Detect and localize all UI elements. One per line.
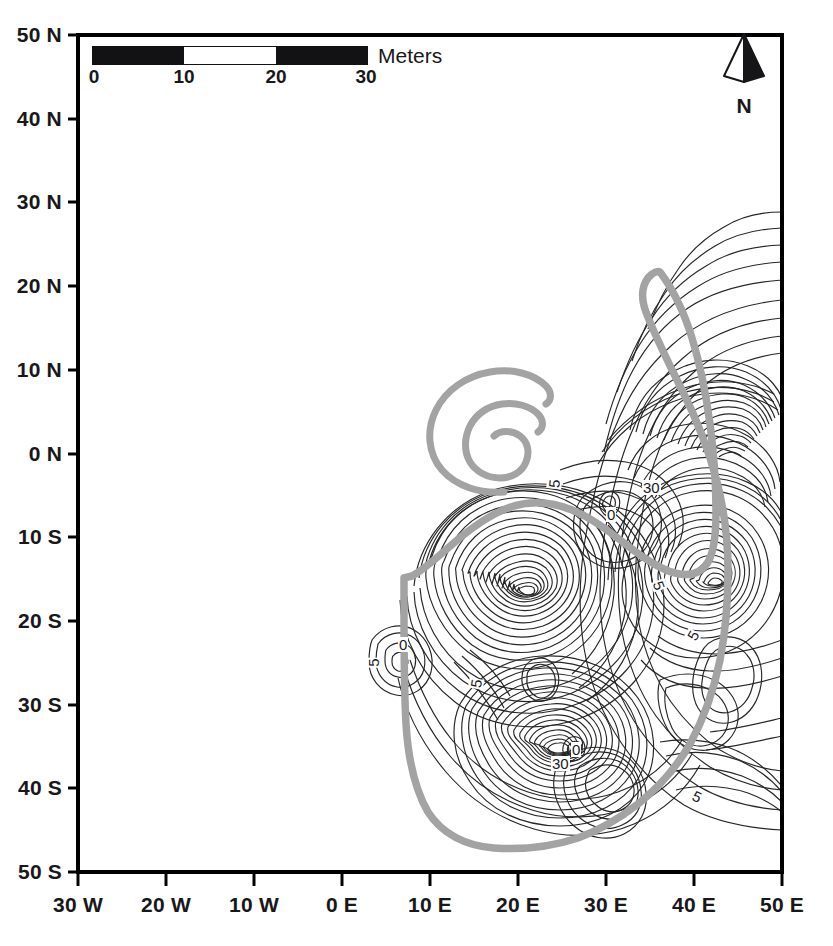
contour-label: 30: [642, 480, 661, 495]
x-axis-tick-label: 50 E: [760, 893, 804, 917]
contour-label: 0: [606, 507, 616, 522]
y-axis-tick-label: 10 S: [0, 525, 62, 549]
scale-bar-segment: [184, 47, 275, 64]
y-axis-tick-label: 40 S: [0, 776, 62, 800]
contour-label: 0: [398, 637, 408, 652]
contour-label: 0: [571, 742, 581, 757]
y-axis-tick-label: 10 N: [0, 358, 62, 382]
x-axis-tick-label: 30 E: [584, 893, 628, 917]
y-axis-tick-label: 30 N: [0, 190, 62, 214]
x-axis-tick-label: 30 W: [53, 893, 103, 917]
y-axis-tick-label: 50 N: [0, 23, 62, 47]
scale-bar-segment: [276, 47, 367, 64]
contour-map: 50 N 40 N 30 N 20 N 10 N 0 N 10 S 20 S 3…: [0, 0, 833, 946]
y-axis-tick-label: 20 N: [0, 274, 62, 298]
x-axis-tick-label: 20 E: [496, 893, 540, 917]
x-axis-tick-label: 40 E: [672, 893, 716, 917]
map-canvas: [0, 0, 833, 946]
x-axis-tick-label: 10 W: [229, 893, 279, 917]
y-axis-tick-label: 20 S: [0, 609, 62, 633]
north-arrow-label: N: [716, 94, 772, 118]
y-axis-tick-label: 40 N: [0, 107, 62, 131]
x-axis-tick-label: 20 W: [141, 893, 191, 917]
scale-bar-ticks: 0 10 20 30: [92, 66, 368, 90]
scale-bar: 0 10 20 30: [92, 46, 368, 90]
scale-bar-tick-label: 30: [355, 66, 376, 88]
contour-label: 5: [546, 478, 562, 490]
y-axis-tick-label: 50 S: [0, 860, 62, 884]
scale-bar-segment: [93, 47, 184, 64]
x-axis-tick-label: 0 E: [326, 893, 358, 917]
scale-bar-tick-label: 20: [265, 66, 286, 88]
contour-label: 30: [551, 756, 570, 771]
y-axis-tick-label: 0 N: [0, 442, 62, 466]
x-axis-tick-label: 10 E: [408, 893, 452, 917]
contour-label: 5: [366, 657, 381, 667]
y-axis-tick-label: 30 S: [0, 693, 62, 717]
scale-bar-units-label: Meters: [378, 44, 442, 68]
scale-bar-segments: [92, 46, 368, 65]
scale-bar-tick-label: 10: [173, 66, 194, 88]
north-arrow: N: [716, 30, 772, 118]
scale-bar-tick-label: 0: [89, 66, 100, 88]
north-arrow-icon: [716, 30, 772, 92]
